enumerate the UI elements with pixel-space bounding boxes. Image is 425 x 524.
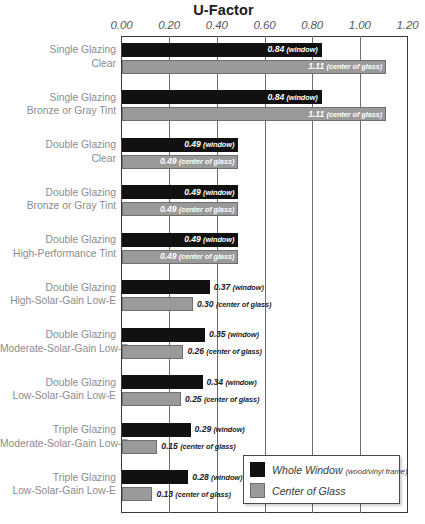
chart-title: U-Factor (0, 2, 425, 18)
category-label-line1: Double Glazing (0, 328, 116, 342)
bar-value-label: 0.37 (window) (214, 283, 264, 292)
bar-value-unit: (window) (233, 283, 264, 292)
x-tick-label: 0.20 (158, 19, 180, 31)
bar-value-unit: (center of glass) (204, 395, 260, 404)
category-label-line2: Low-Solar-Gain Low-E (0, 484, 116, 498)
bar-value-unit: (window) (203, 188, 234, 197)
bar-value-unit: (window) (203, 140, 234, 149)
category-label-line2: High-Solar-Gain Low-E (0, 294, 116, 308)
bar-value-number: 0.34 (207, 377, 226, 387)
legend-label-main: Center of Glass (272, 485, 346, 497)
x-tick-label: 1.00 (349, 19, 371, 31)
bar-value-number: 0.49 (160, 156, 179, 166)
category-label-line1: Double Glazing (0, 376, 116, 390)
bar-value-unit: (center of glass) (216, 300, 272, 309)
bar-value-label: 0.26 (center of glass) (187, 347, 261, 356)
bar-value-unit: (window) (213, 425, 244, 434)
legend-label-sub: (wood/vinyl frame) (346, 467, 408, 476)
bar-value-number: 0.49 (160, 251, 179, 261)
x-tick-label: 0.00 (111, 19, 133, 31)
bar-value-label: 0.30 (center of glass) (197, 300, 271, 309)
category-label-line2: High-Performance Tint (0, 247, 116, 261)
bar-value-label: 0.49 (window) (184, 188, 234, 197)
bar-value-number: 0.49 (160, 204, 179, 214)
legend-swatch-center-of-glass (250, 483, 265, 498)
bar-value-number: 0.13 (156, 489, 175, 499)
bar-value-number: 0.49 (184, 139, 203, 149)
bar-value-label: 0.49 (window) (184, 140, 234, 149)
bar-center-of-glass (122, 297, 194, 311)
category-label-line2: Bronze or Gray Tint (0, 199, 116, 213)
bar-value-number: 0.49 (184, 234, 203, 244)
legend-label-whole-window: Whole Window (wood/vinyl frame) (272, 464, 408, 476)
bar-value-unit: (center of glass) (327, 62, 383, 71)
legend-swatch-whole-window (250, 462, 265, 477)
bar-center-of-glass (122, 345, 184, 359)
x-tick-label: 0.80 (301, 19, 323, 31)
bar-value-number: 0.37 (214, 282, 233, 292)
category-label-line2: Low-Solar-Gain Low-E (0, 389, 116, 403)
category-label: Double GlazingClear (0, 138, 116, 165)
category-label: Double GlazingBronze or Gray Tint (0, 186, 116, 213)
bar-value-unit: (center of glass) (180, 442, 236, 451)
bar-value-unit: (center of glass) (206, 347, 262, 356)
legend-label-center-of-glass: Center of Glass (272, 485, 346, 497)
bar-whole-window (122, 375, 203, 389)
bar-value-label: 0.28 (window) (192, 473, 242, 482)
bar-value-unit: (center of glass) (179, 157, 235, 166)
bar-value-number: 0.49 (184, 187, 203, 197)
bar-value-unit: (window) (203, 235, 234, 244)
bar-value-number: 0.28 (192, 472, 211, 482)
bar-value-label: 0.34 (window) (207, 378, 257, 387)
bar-value-label: 0.15 (center of glass) (161, 442, 235, 451)
category-label: Double GlazingModerate-Solar-Gain Low-E (0, 328, 116, 355)
category-label-line2: Moderate-Solar-Gain Low-E (0, 437, 116, 451)
bar-value-unit: (window) (286, 93, 317, 102)
bar-value-label: 0.49 (window) (184, 235, 234, 244)
bar-value-label: 0.29 (window) (195, 425, 245, 434)
bar-value-label: 1.11 (center of glass) (308, 110, 382, 119)
bar-value-label: 0.49 (center of glass) (160, 157, 234, 166)
bar-value-label: 0.35 (window) (209, 330, 259, 339)
bar-value-number: 0.25 (185, 394, 204, 404)
category-label-line1: Single Glazing (0, 91, 116, 105)
x-tick-label: 1.20 (397, 19, 419, 31)
category-label: Single GlazingClear (0, 43, 116, 70)
legend-item-center-of-glass: Center of Glass (250, 482, 346, 499)
bar-value-unit: (window) (286, 45, 317, 54)
bar-value-number: 0.26 (187, 346, 206, 356)
bar-center-of-glass (122, 487, 153, 501)
category-label-line1: Triple Glazing (0, 471, 116, 485)
bar-value-number: 0.84 (268, 44, 287, 54)
bar-whole-window (122, 423, 191, 437)
bar-value-number: 0.84 (268, 92, 287, 102)
bar-value-label: 0.84 (window) (268, 93, 318, 102)
bar-value-label: 0.49 (center of glass) (160, 205, 234, 214)
bar-whole-window (122, 280, 210, 294)
legend-label-main: Whole Window (272, 464, 343, 476)
category-label: Double GlazingHigh-Performance Tint (0, 233, 116, 260)
x-tick-label: 0.60 (254, 19, 276, 31)
u-factor-chart: U-Factor 0.000.200.400.600.801.001.20 Si… (0, 0, 425, 524)
bar-value-label: 0.84 (window) (268, 45, 318, 54)
category-label-line2: Clear (0, 152, 116, 166)
x-tick-label: 0.40 (206, 19, 228, 31)
category-label: Double GlazingHigh-Solar-Gain Low-E (0, 281, 116, 308)
bar-value-number: 0.29 (195, 424, 214, 434)
bar-value-unit: (center of glass) (179, 252, 235, 261)
legend: Whole Window (wood/vinyl frame) Center o… (243, 455, 400, 504)
category-label-line1: Double Glazing (0, 233, 116, 247)
bar-value-number: 1.11 (308, 109, 326, 119)
bar-center-of-glass (122, 392, 182, 406)
category-label: Double GlazingLow-Solar-Gain Low-E (0, 376, 116, 403)
bar-value-label: 0.13 (center of glass) (156, 490, 230, 499)
category-label: Single GlazingBronze or Gray Tint (0, 91, 116, 118)
category-label-line1: Double Glazing (0, 281, 116, 295)
bar-whole-window (122, 328, 205, 342)
category-label-line2: Bronze or Gray Tint (0, 104, 116, 118)
category-label-line1: Single Glazing (0, 43, 116, 57)
bar-center-of-glass (122, 440, 158, 454)
bar-value-label: 0.49 (center of glass) (160, 252, 234, 261)
category-label-line1: Double Glazing (0, 138, 116, 152)
bar-value-unit: (center of glass) (179, 205, 235, 214)
